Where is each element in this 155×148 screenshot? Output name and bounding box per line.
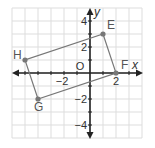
y-tick-label: −4: [74, 119, 87, 131]
quadrilateral-efgh: [22, 31, 118, 101]
quadrilateral-outline: [25, 34, 116, 99]
y-tick-label: 2: [81, 41, 87, 53]
coordinate-plane: −2242−2−4OxyEFGH: [0, 0, 155, 148]
vertex-label-g: G: [34, 100, 43, 114]
x-tick-label: 2: [113, 75, 119, 87]
vertex-point-e: [100, 31, 105, 36]
x-axis-label: x: [131, 58, 139, 72]
coordinate-plane-figure: −2242−2−4OxyEFGH: [0, 0, 155, 148]
vertex-label-h: H: [13, 48, 22, 62]
y-tick-label: 4: [81, 15, 87, 27]
y-tick-label: −2: [74, 93, 87, 105]
x-axis-left-arrow-icon: [12, 70, 19, 77]
vertex-label-f: F: [121, 58, 128, 72]
y-axis-up-arrow-icon: [87, 8, 94, 15]
vertex-point-h: [22, 57, 27, 62]
x-tick-label: −2: [56, 75, 69, 87]
origin-label: O: [76, 60, 85, 72]
vertex-label-e: E: [107, 18, 115, 32]
y-axis-label: y: [93, 5, 101, 19]
